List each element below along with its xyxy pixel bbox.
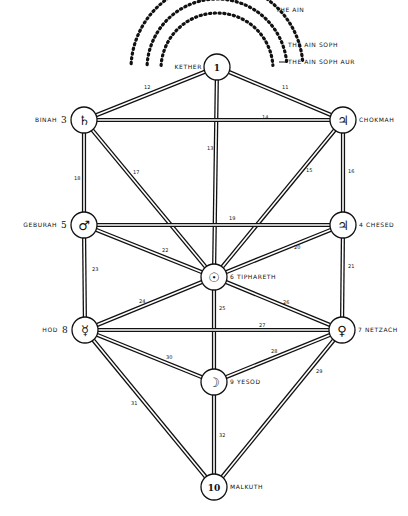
path-29 <box>222 340 334 477</box>
veils-of-negative-existence: THE AINTHE AIN SOPHTHE AIN SOPH AUR <box>131 0 355 65</box>
path-21 <box>342 238 343 317</box>
planet-glyph-icon: ♃ <box>337 113 349 128</box>
path-31 <box>93 340 205 477</box>
sephirah-name: GEBURAH <box>23 221 57 228</box>
path-number: 12 <box>144 84 150 90</box>
tree-of-life-diagram: THE AINTHE AIN SOPHTHE AIN SOPH AUR 1112… <box>0 0 408 516</box>
sephirah-malkuth: 10MALKUTH <box>201 474 263 500</box>
sephirah-kether: 1KETHER <box>175 54 230 80</box>
sephirah-number: 4 <box>359 221 363 228</box>
path-30 <box>97 335 202 377</box>
sephirah-hod: ☿8HOD <box>42 317 98 343</box>
sephirah-number: 7 <box>358 326 362 333</box>
sephirah-yesod: ☽9YESOD <box>201 369 261 395</box>
path-number: 18 <box>74 175 80 181</box>
sephirah-number: 8 <box>62 325 68 335</box>
sephirah-name: CHESED <box>366 221 394 228</box>
path-number: 24 <box>139 298 145 304</box>
sephirah-name: CHOKMAH <box>359 116 394 123</box>
planet-glyph-icon: ♄ <box>78 113 90 128</box>
planet-glyph-icon: ♃ <box>337 218 349 233</box>
sephirah-chesed: ♃4CHESED <box>330 212 394 238</box>
path-number: 16 <box>348 168 354 174</box>
sephirah-number: 5 <box>61 220 67 230</box>
sephirah-number: 9 <box>230 378 234 385</box>
path-number: 30 <box>166 354 172 360</box>
path-28 <box>226 335 330 377</box>
path-number: 27 <box>259 322 265 328</box>
sephirah-number: 3 <box>61 115 67 125</box>
path-number: 32 <box>219 432 225 438</box>
sephirah-name: TIPHARETH <box>236 273 276 280</box>
path-23 <box>84 238 85 317</box>
path-number: 11 <box>282 84 288 90</box>
path-number: 13 <box>207 145 213 151</box>
path-15 <box>222 130 334 267</box>
path-12 <box>96 72 205 115</box>
sephirah-name: KETHER <box>175 63 202 70</box>
sephirah-name: NETZACH <box>365 326 398 333</box>
path-number: 14 <box>262 114 268 120</box>
path-20 <box>226 230 331 272</box>
sephirah-chokmah: ♃CHOKMAH <box>330 107 394 133</box>
planet-glyph-icon: ♂ <box>78 218 90 233</box>
sephirah-netzach: ♀7NETZACH <box>329 317 398 343</box>
veil-label: THE AIN SOPH <box>287 41 338 48</box>
path-17 <box>92 130 205 267</box>
path-number: 22 <box>162 247 168 253</box>
sephirah-geburah: ♂5GEBURAH <box>23 212 97 238</box>
path-22 <box>96 230 202 272</box>
path-13 <box>214 80 217 264</box>
planet-glyph-icon: ☉ <box>208 270 220 285</box>
sephirah-name: HOD <box>42 326 58 333</box>
planet-glyph-icon: ♀ <box>337 323 347 338</box>
path-number: 15 <box>306 167 312 173</box>
sephirah-name: YESOD <box>236 378 261 385</box>
sephirah-number: 10 <box>208 483 221 493</box>
path-number: 28 <box>271 348 277 354</box>
path-number: 17 <box>133 169 139 175</box>
veil-label: THE AIN <box>275 6 304 13</box>
sephirah-name: MALKUTH <box>230 483 263 490</box>
sephirah-name: BINAH <box>35 116 57 123</box>
sephirah-number: 6 <box>230 273 234 280</box>
path-number: 29 <box>316 368 322 374</box>
path-number: 25 <box>219 305 225 311</box>
path-24 <box>226 282 330 325</box>
path-number: 26 <box>283 299 289 305</box>
path-number: 31 <box>131 400 137 406</box>
veil-label: THE AIN SOPH AUR <box>287 58 355 65</box>
planet-glyph-icon: ☽ <box>208 375 220 390</box>
sephirah-number: 1 <box>214 63 220 73</box>
path-number: 21 <box>348 263 354 269</box>
path-11 <box>229 72 331 115</box>
path-number: 23 <box>92 266 98 272</box>
planet-glyph-icon: ☿ <box>81 323 89 338</box>
path-26 <box>97 282 202 325</box>
path-number: 19 <box>229 215 235 221</box>
sephirah-binah: ♄3BINAH <box>35 107 97 133</box>
path-number: 20 <box>294 244 300 250</box>
